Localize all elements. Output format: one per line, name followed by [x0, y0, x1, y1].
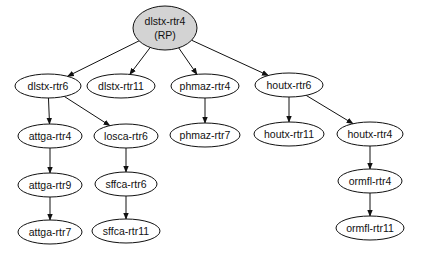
router-node[interactable]: phmaz-rtr4: [171, 74, 239, 98]
node-label: attga-rtr4: [29, 130, 72, 142]
node-label: dlstx-rtr6: [28, 80, 69, 92]
node-label: ormfl-rtr4: [349, 175, 392, 187]
node-label: attga-rtr7: [29, 226, 72, 238]
node-sublabel: (RP): [154, 29, 176, 41]
edge-arrow: [192, 40, 269, 75]
node-label: losca-rtr6: [104, 130, 148, 142]
edge-arrow: [179, 48, 197, 74]
node-label: attga-rtr9: [29, 179, 72, 191]
nodes: dlstx-rtr4(RP)dlstx-rtr6dlstx-rtr11phmaz…: [15, 6, 404, 244]
edge-arrow: [130, 48, 150, 75]
router-node[interactable]: dlstx-rtr11: [87, 74, 155, 98]
router-node[interactable]: houtx-rtr11: [254, 122, 324, 146]
router-node[interactable]: phmaz-rtr7: [170, 123, 240, 147]
node-ellipse: [133, 6, 197, 50]
edge-arrow: [48, 98, 49, 124]
router-node[interactable]: dlstx-rtr6: [15, 74, 81, 98]
node-label: phmaz-rtr4: [180, 80, 231, 92]
node-label: phmaz-rtr7: [180, 129, 231, 141]
edge-arrow: [64, 96, 110, 125]
node-label: houtx-rtr4: [348, 128, 393, 140]
node-label: sffca-rtr11: [103, 225, 149, 237]
router-node[interactable]: houtx-rtr4: [337, 122, 403, 146]
router-node[interactable]: sffca-rtr6: [95, 172, 157, 196]
router-node[interactable]: ormfl-rtr4: [338, 169, 402, 193]
root-node[interactable]: dlstx-rtr4(RP): [133, 6, 197, 50]
node-label: houtx-rtr6: [267, 79, 312, 91]
node-label: dlstx-rtr4: [145, 15, 186, 27]
edge-arrow: [306, 95, 353, 123]
node-label: dlstx-rtr11: [98, 80, 144, 92]
router-node[interactable]: attga-rtr9: [18, 173, 82, 197]
router-node[interactable]: sffca-rtr11: [92, 219, 160, 243]
multicast-tree-diagram: dlstx-rtr4(RP)dlstx-rtr6dlstx-rtr11phmaz…: [0, 0, 421, 259]
router-node[interactable]: ormfl-rtr11: [336, 216, 404, 240]
node-label: ormfl-rtr11: [346, 222, 394, 234]
node-label: houtx-rtr11: [264, 128, 314, 140]
router-node[interactable]: losca-rtr6: [94, 124, 158, 148]
edge-arrow: [68, 41, 140, 76]
node-label: sffca-rtr6: [105, 178, 146, 190]
router-node[interactable]: attga-rtr7: [18, 220, 82, 244]
router-node[interactable]: attga-rtr4: [18, 124, 82, 148]
router-node[interactable]: houtx-rtr6: [255, 73, 323, 97]
